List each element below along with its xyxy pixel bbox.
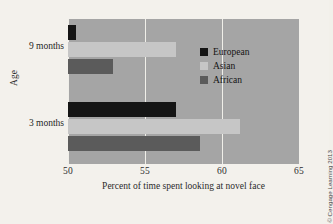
legend-label-european: European (213, 47, 249, 57)
legend-label-asian: Asian (213, 61, 235, 71)
x-axis-label: Percent of time spent looking at novel f… (68, 181, 299, 191)
legend-swatch-european (200, 48, 208, 56)
bar-9months-african (68, 59, 113, 74)
bar-3months-asian (68, 119, 240, 134)
legend-item-african: African (200, 74, 249, 86)
xtick-label-50: 50 (63, 166, 73, 176)
ytick-label-3months: 3 months (29, 118, 64, 128)
bar-9months-european (68, 25, 76, 40)
y-tick-group: 9 months 3 months (0, 0, 64, 224)
bar-9months-asian (68, 42, 176, 57)
gridline-60 (222, 19, 223, 164)
copyright-credit: © Cengage Learning 2013 (326, 150, 333, 223)
legend: European Asian African (200, 46, 249, 88)
legend-item-european: European (200, 46, 249, 58)
xtick-label-55: 55 (140, 166, 150, 176)
legend-swatch-african (200, 76, 208, 84)
legend-swatch-asian (200, 62, 208, 70)
legend-item-asian: Asian (200, 60, 249, 72)
xtick-label-65: 65 (294, 166, 304, 176)
bar-3months-european (68, 102, 176, 117)
xtick-label-60: 60 (217, 166, 227, 176)
legend-label-african: African (213, 75, 242, 85)
bar-3months-african (68, 136, 200, 151)
plot-area (68, 19, 299, 164)
ytick-label-9months: 9 months (29, 41, 64, 51)
